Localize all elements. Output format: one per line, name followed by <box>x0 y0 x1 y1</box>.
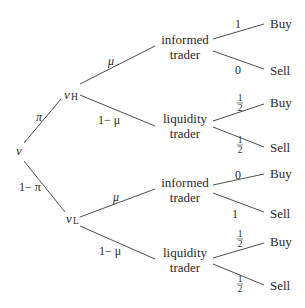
informed-label-line1: informed <box>161 175 209 190</box>
prob-high-informed: μ <box>107 54 114 68</box>
svg-text:2: 2 <box>238 103 243 113</box>
svg-text:1: 1 <box>238 274 243 284</box>
leaf-sell: Sell <box>270 140 291 155</box>
liquidity-label-line2: trader <box>170 126 201 141</box>
svg-text:1: 1 <box>238 229 243 239</box>
leaf-sell: Sell <box>270 63 291 78</box>
leaf-buy: Buy <box>270 95 292 110</box>
root-node-label: v <box>16 143 22 158</box>
informed-label-line1: informed <box>161 32 209 47</box>
prob-root-high: π <box>36 110 43 124</box>
prob-low-liquidity-sell: 1 2 <box>237 274 243 294</box>
prob-low-informed-buy: 0 <box>235 168 241 182</box>
prob-high-informed-sell: 0 <box>235 63 241 77</box>
informed-label-line2: trader <box>170 190 201 205</box>
prob-low-informed: μ <box>112 190 119 204</box>
state-high-subscript: H <box>71 92 78 102</box>
leaf-buy: Buy <box>270 234 292 249</box>
informed-label-line2: trader <box>170 47 201 62</box>
prob-low-liquidity: 1− μ <box>99 244 121 258</box>
svg-text:1: 1 <box>238 93 243 103</box>
prob-root-low: 1− π <box>19 180 41 194</box>
leaf-buy: Buy <box>270 166 292 181</box>
prob-high-liquidity: 1− μ <box>98 113 120 127</box>
edge-low-informed-sell <box>213 193 264 212</box>
state-node-low: v L <box>66 211 79 226</box>
trader-node-low-liquidity: liquidity trader <box>163 245 208 275</box>
prob-high-liquidity-sell: 1 2 <box>237 135 243 155</box>
prob-low-informed-sell: 1 <box>232 207 238 221</box>
trader-node-high-informed: informed trader <box>161 32 209 62</box>
svg-text:2: 2 <box>238 239 243 249</box>
prob-low-liquidity-buy: 1 2 <box>237 229 243 249</box>
liquidity-label-line2: trader <box>170 260 201 275</box>
liquidity-label-line1: liquidity <box>163 245 208 260</box>
state-node-high: v H <box>64 87 78 102</box>
state-low-subscript: L <box>73 216 79 226</box>
edge-high-to-informed <box>80 46 155 84</box>
probability-tree-diagram: v π 1− π v H v L μ 1− μ informed trader … <box>0 0 305 308</box>
leaf-sell: Sell <box>270 278 291 293</box>
state-low-label: v <box>66 211 72 226</box>
trader-node-high-liquidity: liquidity trader <box>163 111 208 141</box>
prob-high-liquidity-buy: 1 2 <box>237 93 243 113</box>
prob-high-informed-buy: 1 <box>235 17 241 31</box>
svg-text:2: 2 <box>238 145 243 155</box>
liquidity-label-line1: liquidity <box>163 111 208 126</box>
trader-node-low-informed: informed trader <box>161 175 209 205</box>
state-high-label: v <box>64 87 70 102</box>
edge-root-to-high <box>24 99 61 143</box>
svg-text:1: 1 <box>238 135 243 145</box>
svg-text:2: 2 <box>238 284 243 294</box>
leaf-buy: Buy <box>270 16 292 31</box>
leaf-sell: Sell <box>270 206 291 221</box>
